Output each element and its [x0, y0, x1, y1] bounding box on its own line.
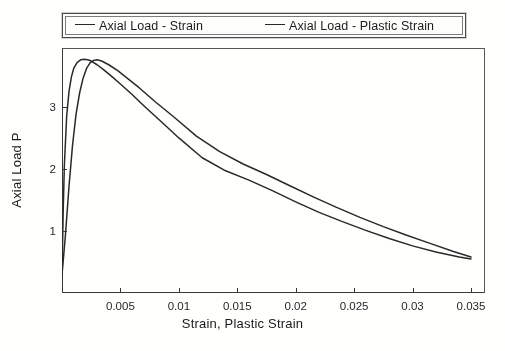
y-axis-label: Axial Load P: [9, 132, 24, 207]
y-tick-mark: [62, 169, 67, 170]
x-tick-label: 0.03: [401, 300, 423, 312]
y-tick-mark: [62, 231, 67, 232]
x-tick-mark: [354, 288, 355, 293]
legend-entry-axial-load-strain: Axial Load - Strain: [75, 19, 203, 33]
chart-legend: Axial Load - Strain Axial Load - Plastic…: [62, 13, 466, 38]
legend-entry-label: Axial Load - Strain: [99, 19, 203, 33]
x-tick-mark: [179, 288, 180, 293]
y-tick-label: 1: [50, 225, 56, 237]
chart-curves: [62, 48, 485, 293]
y-tick-mark: [62, 107, 67, 108]
x-tick-mark: [237, 288, 238, 293]
x-tick-label: 0.02: [284, 300, 306, 312]
chart-figure: Axial Load - Strain Axial Load - Plastic…: [0, 0, 505, 351]
series-line: [62, 59, 471, 275]
y-tick-label: 2: [50, 163, 56, 175]
x-tick-label: 0.01: [168, 300, 190, 312]
legend-line-sample-icon: [75, 24, 95, 25]
x-tick-mark: [471, 288, 472, 293]
plot-area: [62, 48, 485, 293]
x-tick-mark: [296, 288, 297, 293]
x-tick-label: 0.025: [340, 300, 369, 312]
x-tick-mark: [413, 288, 414, 293]
x-tick-label: 0.015: [223, 300, 252, 312]
legend-line-sample-icon: [265, 24, 285, 25]
legend-entry-label: Axial Load - Plastic Strain: [289, 19, 434, 33]
series-line: [62, 60, 471, 275]
y-tick-label: 3: [50, 101, 56, 113]
x-tick-label: 0.005: [106, 300, 135, 312]
x-tick-label: 0.035: [457, 300, 486, 312]
x-tick-mark: [120, 288, 121, 293]
x-axis-label: Strain, Plastic Strain: [0, 316, 505, 331]
legend-entry-axial-load-plastic-strain: Axial Load - Plastic Strain: [265, 19, 434, 33]
